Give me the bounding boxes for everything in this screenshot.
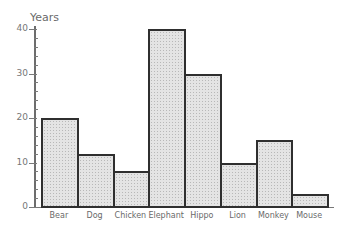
category-label: Lion — [220, 211, 256, 220]
minor-tick — [34, 38, 38, 39]
y-tick-label: 10 — [2, 157, 28, 167]
bar-dog — [77, 154, 115, 208]
minor-tick — [34, 47, 38, 48]
bar-elephant — [148, 29, 186, 208]
minor-tick — [34, 189, 38, 190]
bar-chicken — [113, 171, 151, 208]
minor-tick — [34, 145, 38, 146]
category-label: Bear — [41, 211, 77, 220]
category-label: Dog — [77, 211, 113, 220]
y-tick-label: 40 — [2, 23, 28, 33]
minor-tick — [34, 171, 38, 172]
bar-mouse — [291, 194, 329, 208]
bar-lion — [220, 163, 258, 209]
category-label: Monkey — [256, 211, 292, 220]
category-label: Hippo — [184, 211, 220, 220]
minor-tick — [34, 109, 38, 110]
major-tick — [29, 29, 37, 30]
bar-bear — [41, 118, 79, 208]
y-tick-label: 0 — [2, 201, 28, 211]
y-axis-label: Years — [30, 11, 59, 24]
category-label: Mouse — [291, 211, 327, 220]
major-tick — [29, 163, 37, 164]
minor-tick — [34, 154, 38, 155]
minor-tick — [34, 198, 38, 199]
minor-tick — [34, 82, 38, 83]
major-tick — [29, 207, 37, 208]
minor-tick — [34, 180, 38, 181]
y-tick-label: 30 — [2, 68, 28, 78]
category-label: Elephant — [148, 211, 184, 220]
minor-tick — [34, 100, 38, 101]
major-tick — [29, 74, 37, 75]
bar-monkey — [256, 140, 294, 208]
category-label: Chicken — [113, 211, 149, 220]
minor-tick — [34, 136, 38, 137]
minor-tick — [34, 91, 38, 92]
minor-tick — [34, 65, 38, 66]
bar-hippo — [184, 74, 222, 209]
minor-tick — [34, 56, 38, 57]
major-tick — [29, 118, 37, 119]
minor-tick — [34, 127, 38, 128]
y-tick-label: 20 — [2, 112, 28, 122]
